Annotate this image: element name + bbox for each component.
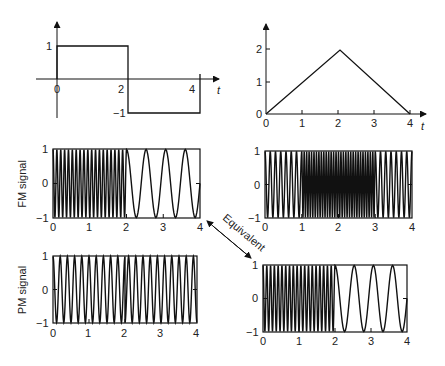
ytick-2: 2 [256,43,262,55]
xtick-2: 2 [121,327,127,339]
ytick-minus-1: −1 [113,107,126,119]
ytick-minus-1: −1 [36,317,49,329]
message-triangle-plot: 2 1 0 0 1 2 3 4 t [256,24,426,132]
ytick-0: 0 [42,284,48,296]
xtick-2: 2 [335,221,341,233]
ytick-minus-1: −1 [246,326,259,338]
ytick-0: 0 [252,292,258,304]
ytick-1: 1 [256,76,262,88]
pm-triangle-waveform [263,266,407,332]
xtick-3: 3 [371,117,377,129]
fm-square-plot: 1 0 −1 0 1 2 3 4 FM signal [16,143,203,233]
message-square-plot: 1 −1 0 2 4 t [36,22,221,119]
pm-square-plot: 1 0 −1 0 1 2 3 4 PM signal [16,250,199,339]
xtick-0: 0 [260,335,266,347]
pm-triangle-plot: 1 0 −1 0 1 2 3 4 [246,259,410,347]
x-axis-label-t: t [421,120,425,132]
xtick-1: 1 [299,221,305,233]
xtick-3: 3 [372,221,378,233]
xtick-4: 4 [197,221,203,233]
fm-square-waveform [53,150,200,218]
fm-signal-ylabel: FM signal [16,160,28,208]
xtick-1: 1 [296,335,302,347]
xtick-0: 0 [50,221,56,233]
xtick-3: 3 [368,335,374,347]
xtick-1: 1 [85,327,91,339]
triangle-wave-line [266,50,410,114]
fm-triangle-plot: 1 0 −1 0 1 2 3 4 [248,145,415,233]
xtick-3: 3 [157,327,163,339]
ytick-minus-1: −1 [248,212,261,224]
fm-triangle-waveform [265,152,412,218]
ytick-1: 1 [252,259,258,271]
xtick-2: 2 [335,117,341,129]
xtick-2: 2 [123,221,129,233]
pm-signal-ylabel: PM signal [16,266,28,314]
xtick-0: 0 [54,83,60,95]
xtick-4: 4 [407,117,413,129]
figure-canvas: 1 −1 0 2 4 t 2 1 0 0 1 2 3 4 t 1 0 −1 0 [0,0,445,366]
ytick-1: 1 [46,40,52,52]
xtick-1: 1 [86,221,92,233]
xtick-4: 4 [404,335,410,347]
xtick-1: 1 [299,117,305,129]
xtick-0: 0 [50,327,56,339]
xtick-2: 2 [118,83,124,95]
x-axis-label-t: t [217,84,221,96]
xtick-0: 0 [263,117,269,129]
ytick-0: 0 [254,179,260,191]
ytick-minus-1: −1 [36,212,49,224]
xtick-2: 2 [332,335,338,347]
ytick-0: 0 [256,108,262,120]
equivalent-label: Equivalent [221,211,268,253]
xtick-0: 0 [262,221,268,233]
xtick-3: 3 [160,221,166,233]
ytick-1: 1 [42,250,48,262]
xtick-4: 4 [189,83,195,95]
xtick-4: 4 [193,327,199,339]
ytick-1: 1 [42,143,48,155]
pm-square-waveform [53,257,197,323]
ytick-1: 1 [254,145,260,157]
xtick-4: 4 [409,221,415,233]
ytick-0: 0 [42,177,48,189]
